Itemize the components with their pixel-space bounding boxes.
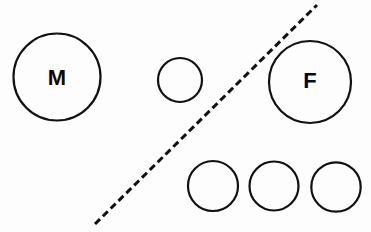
circle-bottom-2 <box>250 162 299 211</box>
circle-bottom-1 <box>188 161 238 211</box>
circle-label-m: M <box>48 65 66 90</box>
circle-label-f: F <box>303 68 316 93</box>
diagram-canvas: M F <box>0 0 371 232</box>
circle-bottom-3 <box>311 162 360 211</box>
circles-diagram: M F <box>0 0 371 232</box>
circle-small-left <box>158 58 202 102</box>
